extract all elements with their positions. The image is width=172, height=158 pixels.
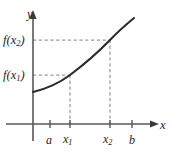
tick-label-a-text: a <box>46 133 52 147</box>
fx1-value-label: f(x1) <box>3 69 25 83</box>
fx2-suffix: ) <box>20 33 24 47</box>
fx2-value-label: f(x2) <box>3 34 25 48</box>
fx1-suffix: ) <box>20 68 24 82</box>
function-curve <box>33 18 134 92</box>
x-axis-arrowhead <box>150 120 159 127</box>
tick-label-b-text: b <box>129 133 135 147</box>
tick-label-x1: x1 <box>63 133 72 147</box>
figure-canvas <box>0 0 172 158</box>
tick-label-a: a <box>46 134 52 146</box>
fx2-prefix: f(x <box>3 33 16 47</box>
function-graph-figure: y x f(x2) f(x1) a x1 x2 b <box>0 0 172 158</box>
x-axis-label: x <box>160 119 166 132</box>
tick-label-x2-subscript: 2 <box>108 138 112 147</box>
tick-label-b: b <box>129 134 135 146</box>
tick-label-x1-subscript: 1 <box>68 138 72 147</box>
tick-label-x2: x2 <box>103 133 112 147</box>
fx1-prefix: f(x <box>3 68 16 82</box>
y-axis-label: y <box>27 8 33 21</box>
